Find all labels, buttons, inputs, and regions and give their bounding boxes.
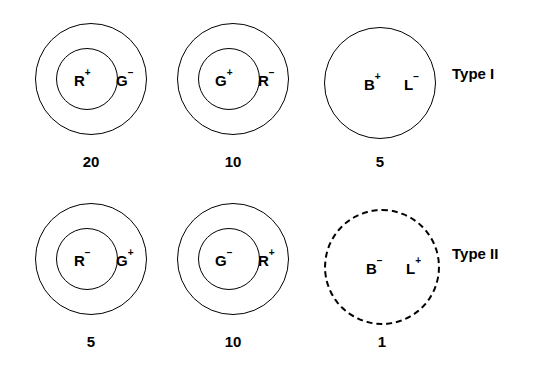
inner-marker-sign: − (377, 255, 383, 266)
inner-marker-base: B (366, 260, 377, 277)
cell-type-diagram: R+G−20G+R−10B+L−5Type IR−G+5G−R+10B−L+1T… (0, 0, 539, 378)
outer-marker-sign: + (269, 247, 275, 258)
diagram-row: R−G+5G−R+10B−L+1Type II (0, 0, 539, 378)
inner-marker-label: G− (215, 253, 233, 268)
inner-marker-sign: − (85, 247, 91, 258)
outer-marker-base: L (406, 260, 415, 277)
cell-count-label: 1 (352, 334, 412, 349)
inner-marker-label: B− (366, 261, 383, 276)
outer-marker-label: L+ (406, 261, 421, 276)
outer-marker-sign: + (128, 247, 134, 258)
cell-count-label: 5 (61, 334, 121, 349)
outer-marker-label: G+ (116, 253, 134, 268)
inner-marker-base: R (74, 252, 85, 269)
outer-marker-base: R (258, 252, 269, 269)
outer-marker-label: R+ (258, 253, 275, 268)
cell-count-label: 10 (203, 334, 263, 349)
outer-marker-sign: + (415, 255, 421, 266)
inner-marker-label: R− (74, 253, 91, 268)
type-label: Type II (452, 246, 498, 261)
outer-marker-base: G (116, 252, 128, 269)
inner-marker-sign: − (227, 247, 233, 258)
inner-marker-base: G (215, 252, 227, 269)
